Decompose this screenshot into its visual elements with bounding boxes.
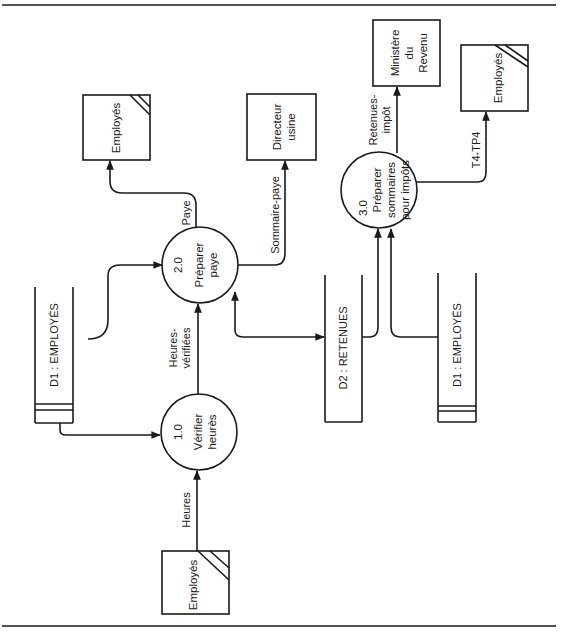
flow-label-heures-verifiees-2: vérifiées bbox=[180, 327, 192, 368]
entity-label: Employés bbox=[187, 560, 199, 611]
process-2-preparer-paye: 2.0 Préparer paye bbox=[162, 227, 238, 303]
flow-label-retenues-impot-1: Retenues- bbox=[367, 94, 379, 145]
store-label: D1 : EMPLOYÉS bbox=[451, 303, 463, 387]
process-number: 3.0 bbox=[357, 200, 369, 216]
process-3-preparer-sommaires: 3.0 Préparer sommaires pour impôts bbox=[341, 152, 417, 228]
flow-label-paye: Paye bbox=[180, 200, 192, 225]
flow-d1-to-p3 bbox=[391, 229, 438, 337]
store-label: D2 : RETENUES bbox=[337, 306, 349, 389]
flow-d1-to-p2 bbox=[88, 265, 162, 339]
entity-ministere-du-revenu: Ministère du Revenu bbox=[373, 20, 440, 86]
flow-label-retenues-impot-2: impôt bbox=[380, 107, 392, 134]
flow-label-t4-tp4: T4-TP4 bbox=[470, 132, 482, 169]
entity-label-line2: usine bbox=[285, 113, 297, 141]
store-d2-retenues: D2 : RETENUES bbox=[325, 275, 362, 422]
store-d1-employes-left: D1 : EMPLOYÉS bbox=[35, 287, 73, 423]
entity-employes-top: Employés bbox=[83, 95, 150, 160]
store-d1-employes-right: D1 : EMPLOYÉS bbox=[438, 273, 476, 422]
store-label: D1 : EMPLOYÉS bbox=[48, 303, 60, 387]
entity-employes-right: Employés bbox=[461, 45, 528, 111]
entity-label: Employés bbox=[110, 103, 122, 154]
entity-label-line1: Directeur bbox=[271, 104, 283, 151]
entity-label-line1: Ministère bbox=[389, 30, 401, 77]
entity-employes-bottom: Employés bbox=[162, 551, 229, 614]
flow-label-heures: Heures bbox=[180, 492, 192, 528]
flow-p2-d2 bbox=[235, 292, 324, 337]
flow-d1-to-p1 bbox=[60, 423, 160, 435]
process-label-line2: sommaires bbox=[385, 162, 397, 218]
flow-label-heures-verifiees-1: Heures- bbox=[167, 328, 179, 367]
flow-d2-to-p3 bbox=[362, 229, 378, 337]
process-label-line2: heurès bbox=[206, 414, 218, 449]
process-label-line1: Préparer bbox=[371, 167, 383, 212]
entity-label-line2: du bbox=[403, 47, 415, 60]
process-number: 1.0 bbox=[172, 424, 184, 440]
data-flow-diagram: Employés Directeur usine Ministère du Re… bbox=[0, 0, 569, 638]
entity-label: Employés bbox=[492, 53, 504, 104]
process-label-line1: Préparer bbox=[193, 242, 205, 287]
process-number: 2.0 bbox=[172, 257, 184, 273]
flow-label-sommaire-paye: Sommaire-paye bbox=[269, 176, 281, 254]
process-1-verifier-heures: 1.0 Vérifier heurès bbox=[161, 394, 237, 470]
entity-directeur-usine: Directeur usine bbox=[247, 94, 316, 160]
process-label-line1: Vérifier bbox=[192, 414, 204, 451]
process-label-line2: paye bbox=[207, 253, 219, 278]
entity-label-line3: Revenu bbox=[417, 33, 429, 73]
process-label-line3: pour impôts bbox=[399, 160, 411, 220]
